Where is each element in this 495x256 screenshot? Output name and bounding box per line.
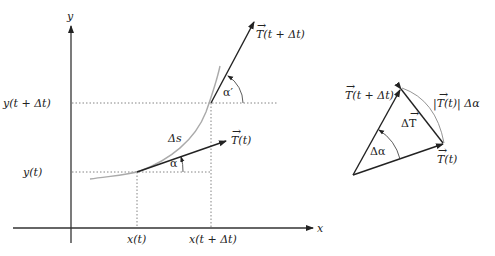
tick-x-t-dt: x(t + Δt) bbox=[189, 233, 237, 246]
tick-y-t: y(t) bbox=[22, 166, 42, 179]
tangent-vector-t bbox=[137, 141, 226, 172]
triangle-vector-t-dt bbox=[353, 90, 400, 175]
vector-arrow-accent: → bbox=[438, 144, 447, 157]
vector-triangle: T(t + Δt) → T(t) → ΔT → Δα |T(t)| Δα → bbox=[345, 80, 480, 175]
vector-arrow-accent: → bbox=[346, 80, 355, 93]
vector-arrow-accent: → bbox=[439, 88, 448, 101]
delta-alpha-label: Δα bbox=[370, 145, 386, 158]
triangle-vector-t bbox=[353, 144, 443, 175]
vector-arrow-accent: → bbox=[410, 107, 419, 120]
x-axis-label: x bbox=[317, 222, 324, 235]
y-axis-label: y bbox=[66, 10, 74, 23]
curve-plot: x y Δs T(t) → T(t + Δt) → α α′ y(t) y(t … bbox=[2, 10, 324, 246]
arc-length-label: Δs bbox=[167, 132, 182, 145]
angle-alpha-arc bbox=[181, 157, 183, 172]
tick-x-t: x(t) bbox=[127, 233, 146, 246]
vector-arrow-accent: → bbox=[232, 125, 241, 138]
tick-y-t-dt: y(t + Δt) bbox=[2, 97, 51, 110]
tangent-vector-diagram: x y Δs T(t) → T(t + Δt) → α α′ y(t) y(t … bbox=[0, 0, 495, 256]
angle-alpha-prime-label: α′ bbox=[223, 86, 233, 99]
angle-alpha-label: α bbox=[170, 157, 178, 170]
curve-path bbox=[90, 66, 220, 179]
vector-arrow-accent: → bbox=[257, 19, 266, 32]
